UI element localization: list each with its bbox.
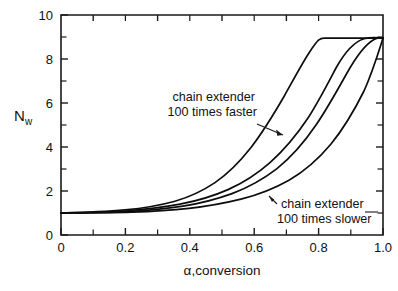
y-tick-label-0: 0 — [46, 228, 53, 243]
x-tick-label-4: 0.8 — [310, 240, 328, 255]
annotation-faster-line1: chain extender — [172, 90, 255, 104]
annotation-faster: chain extender 100 times faster — [167, 90, 257, 119]
curve-chain-extender-middle-upper — [61, 38, 383, 213]
y-tick-label-2: 4 — [46, 140, 53, 155]
y-axis-ticks-left — [61, 15, 68, 235]
x-tick-label-2: 0.4 — [181, 240, 199, 255]
y-tick-label-3: 6 — [46, 96, 53, 111]
y-axis-title-main: N — [14, 107, 25, 124]
x-axis-ticks-top — [93, 15, 351, 21]
y-tick-label-4: 8 — [46, 52, 53, 67]
y-axis-title: N w — [14, 107, 33, 127]
curve-chain-extender-faster — [61, 38, 383, 213]
y-tick-label-5: 10 — [39, 8, 53, 23]
annotation-slower-line1: chain extender — [281, 197, 364, 211]
annotation-slower-leader — [269, 196, 277, 204]
y-axis-title-subscript: w — [24, 116, 33, 127]
x-axis-ticks-bottom — [61, 228, 383, 235]
curve-chain-extender-middle-lower — [61, 38, 383, 213]
annotation-slower-line2: 100 times slower — [277, 212, 372, 226]
y-axis-tick-labels: 0 2 4 6 8 10 — [39, 8, 53, 243]
x-tick-label-0: 0 — [57, 240, 64, 255]
y-axis-ticks-right — [376, 37, 383, 213]
x-tick-label-1: 0.2 — [116, 240, 134, 255]
x-axis-title: α,conversion — [184, 263, 261, 278]
x-tick-label-5: 1.0 — [374, 240, 392, 255]
curve-chain-extender-slower — [61, 38, 383, 213]
y-tick-label-1: 2 — [46, 184, 53, 199]
data-curves — [61, 38, 383, 213]
annotation-slower: chain extender 100 times slower — [277, 197, 372, 226]
x-tick-label-3: 0.6 — [245, 240, 263, 255]
annotation-faster-line2: 100 times faster — [167, 105, 257, 119]
x-axis-tick-labels: 0 0.2 0.4 0.6 0.8 1.0 — [57, 240, 392, 255]
plot-area: 0 0.2 0.4 0.6 0.8 1.0 0 2 4 6 8 10 N w α… — [0, 0, 398, 291]
chart-figure: 0 0.2 0.4 0.6 0.8 1.0 0 2 4 6 8 10 N w α… — [0, 0, 398, 291]
